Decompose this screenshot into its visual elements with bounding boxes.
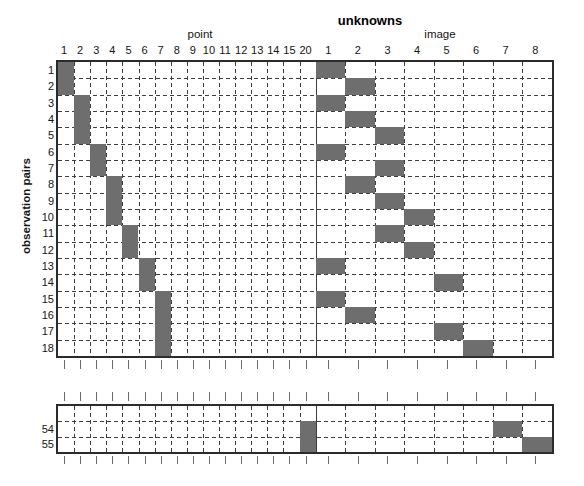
column-header-point-12: 12 <box>233 44 249 56</box>
matrix-cell-point-4 <box>106 209 122 225</box>
matrix-cell-point-14 <box>267 78 283 94</box>
matrix-cell-point-16 <box>300 258 316 274</box>
grid-continuation-tick <box>145 360 146 369</box>
matrix-cell-image-5 <box>434 274 464 290</box>
matrix-cell-point-7 <box>155 78 171 94</box>
matrix-cell-point-4 <box>106 274 122 290</box>
matrix-cell-point-1 <box>58 127 74 143</box>
matrix-cell-point-7 <box>155 274 171 290</box>
matrix-cell-point-4 <box>106 340 122 356</box>
matrix-cell-point-7 <box>155 127 171 143</box>
matrix-cell-point-16 <box>300 78 316 94</box>
matrix-cell-point-5 <box>122 144 138 160</box>
matrix-cell-point-15 <box>283 406 299 421</box>
matrix-cell-point-5 <box>122 437 138 452</box>
matrix-cell-point-8 <box>171 193 187 209</box>
matrix-cell-image-3 <box>375 95 405 111</box>
matrix-cell-point-8 <box>171 209 187 225</box>
matrix-cell-point-10 <box>203 340 219 356</box>
matrix-cell-point-14 <box>267 95 283 111</box>
grid-continuation-tick <box>80 392 81 401</box>
matrix-cell-point-5 <box>122 242 138 258</box>
row-number-7: 7 <box>48 163 54 174</box>
matrix-cell-point-16 <box>300 62 316 78</box>
matrix-cell-point-12 <box>235 127 251 143</box>
matrix-cell-point-10 <box>203 242 219 258</box>
matrix-cell-point-6 <box>139 209 155 225</box>
matrix-cell-point-14 <box>267 176 283 192</box>
matrix-cell-point-6 <box>139 323 155 339</box>
matrix-cell-image-8 <box>522 111 552 127</box>
matrix-cell-point-16 <box>300 323 316 339</box>
matrix-cell-point-15 <box>283 209 299 225</box>
matrix-cell-point-6 <box>139 160 155 176</box>
matrix-cell-point-1 <box>58 291 74 307</box>
matrix-cell-point-4 <box>106 176 122 192</box>
matrix-cell-point-16 <box>300 421 316 436</box>
y-axis-label: observation pairs <box>20 146 32 266</box>
grid-continuation-tick <box>476 456 477 464</box>
matrix-cell-point-14 <box>267 144 283 160</box>
matrix-cell-point-7 <box>155 176 171 192</box>
grid-continuation-tick <box>193 360 194 369</box>
matrix-cell-image-1 <box>316 62 346 78</box>
matrix-cell-point-9 <box>187 323 203 339</box>
grid-continuation-tick <box>225 360 226 369</box>
matrix-cell-point-13 <box>251 340 267 356</box>
matrix-cell-point-5 <box>122 209 138 225</box>
matrix-cell-image-1 <box>316 258 346 274</box>
matrix-cell-point-9 <box>187 95 203 111</box>
matrix-cell-image-5 <box>434 258 464 274</box>
matrix-cell-point-10 <box>203 111 219 127</box>
matrix-row: 14 <box>58 274 552 290</box>
matrix-cell-image-5 <box>434 323 464 339</box>
matrix-cell-image-4 <box>404 323 434 339</box>
matrix-cell-image-4 <box>404 406 434 421</box>
matrix-cell-point-13 <box>251 127 267 143</box>
matrix-cell-image-1 <box>316 95 346 111</box>
matrix-cell-point-10 <box>203 62 219 78</box>
matrix-cell-point-3 <box>90 406 106 421</box>
matrix-cell-point-1 <box>58 176 74 192</box>
matrix-cell-image-3 <box>375 242 405 258</box>
matrix-cell-image-5 <box>434 78 464 94</box>
matrix-cell-image-5 <box>434 406 464 421</box>
matrix-cell-point-3 <box>90 258 106 274</box>
matrix-cell-image-6 <box>463 225 493 241</box>
matrix-cell-point-8 <box>171 111 187 127</box>
matrix-cell-point-15 <box>283 111 299 127</box>
grid-continuation-tick <box>96 392 97 401</box>
matrix-cell-image-7 <box>493 209 523 225</box>
matrix-cell-point-14 <box>267 406 283 421</box>
matrix-cell-image-1 <box>316 127 346 143</box>
matrix-cell-point-12 <box>235 340 251 356</box>
grid-continuation-tick <box>306 360 307 369</box>
matrix-cell-point-16 <box>300 209 316 225</box>
matrix-cell-point-9 <box>187 176 203 192</box>
matrix-cell-point-8 <box>171 160 187 176</box>
matrix-cell-point-11 <box>219 209 235 225</box>
matrix-cell-point-6 <box>139 144 155 160</box>
matrix-cell-image-6 <box>463 144 493 160</box>
matrix-cell-image-2 <box>345 209 375 225</box>
column-header-image-3: 3 <box>373 44 403 56</box>
matrix-cell-point-8 <box>171 62 187 78</box>
matrix-cell-point-4 <box>106 62 122 78</box>
grid-continuation-tick <box>387 392 388 401</box>
matrix-cell-point-16 <box>300 193 316 209</box>
matrix-cell-point-5 <box>122 193 138 209</box>
grid-continuation-tick <box>96 360 97 369</box>
matrix-cell-point-2 <box>74 307 90 323</box>
grid-continuation-tick <box>328 456 329 464</box>
matrix-cell-point-6 <box>139 274 155 290</box>
matrix-cell-image-3 <box>375 406 405 421</box>
page-title: unknowns <box>310 14 430 28</box>
matrix-cell-point-12 <box>235 421 251 436</box>
matrix-cell-point-6 <box>139 291 155 307</box>
row-number-5: 5 <box>48 130 54 141</box>
matrix-cell-point-11 <box>219 340 235 356</box>
grid-continuation-tick <box>128 392 129 401</box>
matrix-cell-point-10 <box>203 127 219 143</box>
matrix-cell-point-14 <box>267 258 283 274</box>
matrix-cell-image-7 <box>493 127 523 143</box>
